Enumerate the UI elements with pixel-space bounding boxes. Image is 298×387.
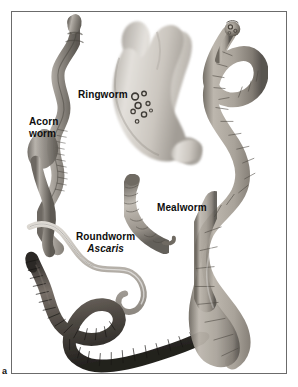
label-mealworm: Mealworm bbox=[157, 202, 207, 214]
label-earthworm: Earthworm bbox=[34, 372, 87, 374]
tapeworm-illustration bbox=[189, 21, 261, 368]
worm-illustrations bbox=[12, 12, 286, 373]
tapeworm-scolex bbox=[224, 21, 240, 37]
label-acorn-worm-line1: Acorn bbox=[29, 116, 58, 127]
label-roundworm: Roundworm Ascaris bbox=[76, 231, 135, 254]
label-acorn-worm: Acorn worm bbox=[29, 116, 75, 139]
label-acorn-worm-line2: worm bbox=[29, 128, 56, 139]
label-ringworm: Ringworm bbox=[78, 89, 128, 101]
figure-root: Acorn worm Ringworm Mealworm Roundworm A… bbox=[0, 0, 298, 387]
figure-frame: Acorn worm Ringworm Mealworm Roundworm A… bbox=[11, 11, 287, 374]
label-roundworm-common: Roundworm bbox=[76, 231, 135, 242]
label-tapeworm: Tapeworm bbox=[198, 372, 248, 374]
panel-letter: a bbox=[2, 366, 7, 376]
label-roundworm-species: Ascaris bbox=[76, 243, 135, 255]
earthworm-illustration bbox=[26, 257, 211, 366]
